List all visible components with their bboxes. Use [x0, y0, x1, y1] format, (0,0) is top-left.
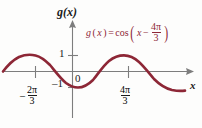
equation-fraction-denominator: 3 [152, 32, 161, 43]
equation-fraction: 4π 3 [150, 22, 162, 43]
fraction-denominator: 3 [28, 95, 37, 106]
fraction: 4π 3 [119, 85, 131, 106]
x-tick-label-4pi-over-3: 4π 3 [119, 85, 131, 106]
equation-lhs-close-paren: ) [103, 27, 106, 38]
equation-lhs-open-paren: ( [93, 27, 96, 38]
equation-argument-variable: x [137, 27, 141, 38]
x-tick-label-neg-2pi-over-3: – 2π 3 [20, 85, 38, 106]
equation-fraction-numerator: 4π [150, 22, 162, 32]
y-tick-label-neg1: –1 [52, 78, 63, 89]
y-axis-label: g(x) [57, 6, 77, 18]
origin-label: 0 [75, 73, 81, 84]
fraction: 2π 3 [26, 85, 38, 106]
equation-annotation: g ( x ) = cos ( x − 4π 3 ) [86, 22, 170, 43]
fraction-numerator: 4π [119, 85, 131, 95]
equation-function-name: g [86, 27, 91, 38]
minus-sign: – [20, 90, 25, 101]
equation-minus-sign: − [143, 27, 149, 38]
fraction-numerator: 2π [26, 85, 38, 95]
equation-cos: cos [115, 27, 128, 38]
plot-canvas [0, 0, 202, 128]
equation-close-paren: ) [164, 25, 168, 40]
graph-figure: g(x) x 1 –1 0 – 2π 3 4π 3 g ( x ) = cos … [0, 0, 202, 128]
y-tick-label-1: 1 [59, 48, 65, 59]
x-axis-label: x [190, 80, 196, 91]
fraction-denominator: 3 [121, 95, 130, 106]
equation-equals-sign: = [108, 27, 114, 38]
y-axis [69, 20, 76, 118]
equation-open-paren: ( [130, 25, 134, 40]
equation-lhs-variable: x [97, 27, 101, 38]
